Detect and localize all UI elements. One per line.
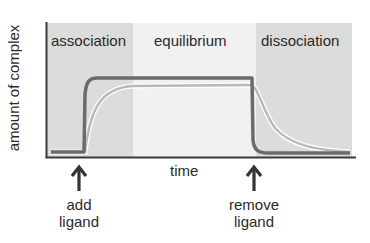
add-ligand-label: add ligand	[49, 196, 109, 230]
remove-ligand-label: remove ligand	[219, 196, 289, 230]
y-axis-label: amount of complex	[5, 25, 22, 152]
y-axis-label-container: amount of complex	[3, 18, 23, 158]
remove-ligand-arrow	[247, 167, 261, 191]
phase-label-dissociation: dissociation	[261, 33, 339, 48]
remove-ligand-label-line2: ligand	[219, 213, 289, 230]
remove-ligand-label-line1: remove	[219, 196, 289, 213]
add-ligand-label-line1: add	[49, 196, 109, 213]
add-ligand-label-line2: ligand	[49, 213, 109, 230]
phase-label-equilibrium: equilibrium	[154, 33, 227, 48]
x-axis-label: time	[170, 163, 198, 178]
phase-label-association: association	[51, 33, 126, 48]
add-ligand-arrow	[72, 167, 86, 191]
